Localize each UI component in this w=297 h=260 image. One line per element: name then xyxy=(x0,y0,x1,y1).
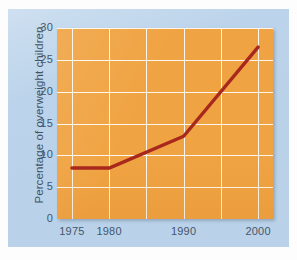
figure-root: Percentage of overweight children 051015… xyxy=(0,0,297,260)
y-tick-label-30: 30 xyxy=(23,21,53,33)
y-tick-label-25: 25 xyxy=(23,53,53,65)
series-polyline xyxy=(72,47,258,168)
y-tick-label-20: 20 xyxy=(23,85,53,97)
chart-panel: Percentage of overweight children 051015… xyxy=(8,9,289,247)
y-tick-label-10: 10 xyxy=(23,148,53,160)
x-axis-tick-labels: 1975198019902000 xyxy=(57,225,273,241)
x-tick-label-2000: 2000 xyxy=(235,225,281,237)
y-tick-label-15: 15 xyxy=(23,117,53,129)
data-line-series xyxy=(57,28,273,219)
x-tick-label-1990: 1990 xyxy=(161,225,207,237)
y-tick-label-5: 5 xyxy=(23,180,53,192)
x-tick-label-1980: 1980 xyxy=(86,225,132,237)
plot-area xyxy=(57,28,273,219)
y-axis-tick-labels: 051015202530 xyxy=(19,28,53,219)
y-tick-label-0: 0 xyxy=(23,212,53,224)
